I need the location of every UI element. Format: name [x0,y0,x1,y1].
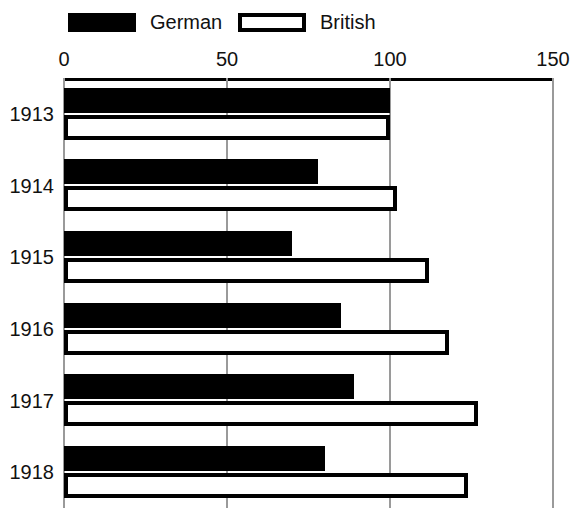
bar-german-1915 [64,231,292,256]
chart-legend: German British [0,6,575,42]
x-tick-label-50: 50 [216,48,238,70]
bar-german-1917 [64,374,354,399]
bar-british-1913 [64,115,390,140]
bar-british-1916 [64,330,449,355]
bar-german-1916 [64,303,341,328]
bar-group-1914 [64,150,553,222]
legend-item-british: British [238,6,376,38]
x-tick-label-100: 100 [373,48,406,70]
bar-group-1916 [64,293,553,365]
y-category-label-1916: 1916 [10,319,55,339]
y-category-label-1917: 1917 [10,391,55,411]
bar-british-1917 [64,401,478,426]
y-axis-category-labels: 191319141915191619171918 [0,78,58,508]
legend-item-german: German [68,6,222,38]
bar-german-1914 [64,159,318,184]
legend-label-british: British [320,12,376,32]
bar-british-1915 [64,258,429,283]
bar-german-1918 [64,446,325,471]
legend-label-german: German [150,12,222,32]
bar-british-1914 [64,186,397,211]
x-tick-label-150: 150 [536,48,569,70]
y-category-label-1913: 1913 [10,104,55,124]
x-axis-tick-labels: 050100150 [0,48,575,74]
y-category-label-1915: 1915 [10,247,55,267]
bar-german-1913 [64,88,390,113]
y-category-label-1918: 1918 [10,462,55,482]
bar-british-1918 [64,473,468,498]
bar-chart: German British 050100150 191319141915191… [0,0,575,522]
legend-swatch-british-icon [238,13,306,32]
y-category-label-1914: 1914 [10,176,55,196]
bar-group-1913 [64,78,553,150]
legend-swatch-german-icon [68,13,136,32]
plot-area [64,78,553,508]
bar-group-1915 [64,221,553,293]
x-tick-label-0: 0 [58,48,69,70]
bar-group-1917 [64,365,553,437]
bar-group-1918 [64,436,553,508]
